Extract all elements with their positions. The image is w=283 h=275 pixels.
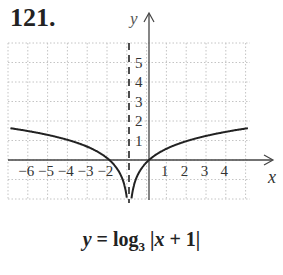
svg-text:2: 2 — [135, 113, 143, 129]
caption-var: x — [154, 228, 164, 250]
svg-text:4: 4 — [135, 74, 143, 90]
svg-text:−2: −2 — [97, 163, 113, 179]
x-axis-label: x — [267, 167, 276, 187]
svg-text:2: 2 — [181, 163, 189, 179]
svg-text:1: 1 — [161, 163, 169, 179]
svg-text:−5: −5 — [38, 163, 54, 179]
svg-text:−4: −4 — [58, 163, 74, 179]
svg-text:4: 4 — [220, 163, 228, 179]
caption-abs-rest: + 1| — [164, 228, 200, 250]
caption-log: = log — [92, 228, 139, 250]
y-axis-label: y — [128, 9, 138, 28]
svg-text:3: 3 — [201, 163, 209, 179]
caption-lhs: y — [83, 228, 92, 250]
svg-text:−3: −3 — [78, 163, 94, 179]
svg-text:−6: −6 — [18, 163, 34, 179]
svg-text:3: 3 — [135, 94, 143, 110]
function-caption: y = log3 |x + 1| — [0, 228, 283, 255]
svg-text:5: 5 — [135, 55, 143, 71]
svg-text:1: 1 — [135, 133, 143, 149]
